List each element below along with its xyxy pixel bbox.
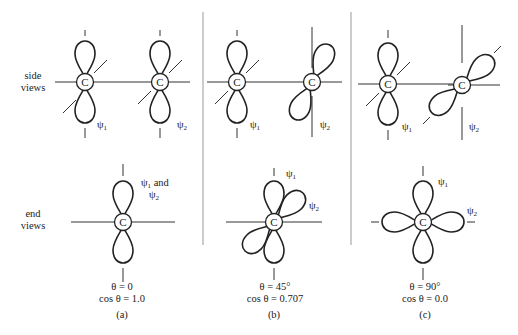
orbital-overlap-diagram: side views end views C ψ1 [0, 0, 518, 335]
panel-c-end-view: C ψ1 ψ2 θ = 90° cos θ = 0.0 (c) [371, 166, 478, 321]
panel-label: (a) [116, 309, 128, 321]
psi2-label: ψ2 [149, 189, 160, 202]
side-views-label: side views [21, 70, 46, 93]
psi2-label: ψ2 [467, 205, 478, 218]
end-views-label: end views [21, 208, 46, 231]
panel-a-end-view: C ψ1 and ψ2 θ = 0 cos θ = 1.0 (a) [71, 164, 175, 321]
psi1-label: ψ1 [286, 168, 297, 181]
svg-text:C: C [270, 216, 277, 228]
cos-theta-value: cos θ = 1.0 [99, 293, 145, 304]
theta-value: θ = 45° [260, 281, 291, 292]
svg-text:C: C [419, 216, 426, 228]
panel-b-end-view: C ψ1 ψ2 θ = 45° cos θ = 0.707 (b) [226, 168, 322, 321]
svg-text:C: C [119, 216, 126, 228]
panel-c-side-view: C ψ1 C ψ2 [358, 25, 501, 140]
psi1-label: ψ1 [438, 176, 449, 189]
psi1-label: ψ1 [97, 119, 108, 132]
theta-value: θ = 90° [410, 281, 441, 292]
svg-text:C: C [384, 78, 391, 90]
svg-text:C: C [458, 79, 465, 91]
cos-theta-value: cos θ = 0.0 [402, 293, 448, 304]
psi2-label: ψ2 [309, 200, 320, 213]
svg-text:C: C [156, 76, 163, 88]
psi2-label: ψ2 [320, 119, 331, 132]
panel-label: (b) [268, 309, 281, 321]
psi2-label: ψ2 [177, 119, 188, 132]
panel-label: (c) [419, 309, 431, 321]
svg-text:views: views [21, 82, 46, 93]
svg-text:end: end [25, 208, 41, 219]
psi2-label: ψ2 [469, 121, 480, 134]
carbon-atom-2: C [423, 25, 501, 140]
svg-text:C: C [81, 76, 88, 88]
svg-text:views: views [21, 220, 46, 231]
psi1-label: ψ1 [402, 121, 413, 134]
svg-text:C: C [233, 76, 240, 88]
cos-theta-value: cos θ = 0.707 [247, 293, 303, 304]
panel-b-side-view: C ψ1 C ψ2 [207, 27, 342, 138]
psi1-label: ψ1 [250, 119, 261, 132]
panel-a-side-view: C ψ1 C ψ2 [55, 30, 190, 138]
svg-text:C: C [308, 76, 315, 88]
svg-text:side: side [25, 70, 42, 81]
theta-value: θ = 0 [111, 281, 132, 292]
